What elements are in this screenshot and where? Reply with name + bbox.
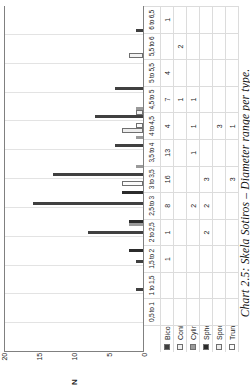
table-cell: 16 [161, 166, 174, 193]
table-column-header: 5 to 5,5 [144, 60, 161, 87]
y-tick-label: 15 [36, 353, 43, 360]
table-cell [200, 60, 213, 87]
table-column-header: 0,5 to 1 [144, 299, 161, 326]
legend-item-spheroid[interactable]: Spheroid [200, 325, 213, 352]
legend-swatch-icon [190, 344, 196, 350]
table-cell [226, 219, 239, 246]
table-row: Conical12 [174, 7, 187, 353]
table-column-header: 5,5 to 6 [144, 33, 161, 60]
figure-page: N 05101520 0,5 to 11 to 1,51,5 to 22 to … [0, 0, 250, 386]
table-cell: 1 [187, 140, 200, 167]
y-axis-title: N [4, 369, 144, 382]
bar-group [5, 63, 143, 92]
table-cell [226, 33, 239, 60]
legend-item-label: Truncated cone [229, 325, 236, 340]
table-cell [213, 33, 226, 60]
bar [136, 29, 143, 32]
legend-item-label: Conical [177, 325, 184, 340]
bar-group-inner [5, 95, 143, 119]
bar [95, 115, 143, 118]
figure-caption: Chart 2.5: Skela Sotiros – Diameter rang… [239, 0, 250, 386]
legend-item-biconical[interactable]: Biconical [161, 325, 174, 352]
legend-swatch-icon [203, 344, 209, 350]
table-cell [174, 246, 187, 273]
table-cell [174, 113, 187, 140]
table-column-header: 4 to 4,5 [144, 113, 161, 140]
bar-group [5, 34, 143, 63]
table-cell: 3 [200, 166, 213, 193]
table-body: Biconical11816134741Conical12Cylindrical… [161, 7, 239, 353]
table-cell [200, 33, 213, 60]
legend-swatch-icon [229, 344, 235, 350]
chart-plot-area: N 05101520 [4, 6, 144, 382]
bar-group-inner [5, 152, 143, 176]
table-cell [161, 272, 174, 299]
table-cell [174, 7, 187, 34]
bar [136, 260, 143, 263]
table-cell [174, 299, 187, 326]
table-cell [187, 60, 200, 87]
table-cell [187, 272, 200, 299]
table-cell [213, 60, 226, 87]
bar-group-inner [5, 66, 143, 90]
bar-group [5, 120, 143, 149]
table-column-header: 2 to 2,5 [144, 219, 161, 246]
table-cell [161, 33, 174, 60]
bar [129, 53, 143, 58]
table-cell [226, 7, 239, 34]
bar [136, 288, 143, 291]
bar-group-inner [5, 325, 143, 349]
table-row: Truncated cone31 [226, 7, 239, 353]
table-cell [187, 166, 200, 193]
table-row: Spool3 [213, 7, 226, 353]
legend-swatch-icon [177, 344, 183, 350]
table-cell [213, 7, 226, 34]
table-cell [226, 246, 239, 273]
table-cell [174, 219, 187, 246]
table-cell [187, 246, 200, 273]
bar-group [5, 6, 143, 34]
table-cell [174, 193, 187, 220]
bar-group-inner [5, 210, 143, 234]
table-cell [213, 219, 226, 246]
table-cell: 1 [174, 86, 187, 113]
bar [136, 165, 143, 168]
bar-groups [5, 6, 143, 351]
bar-group [5, 92, 143, 121]
table-cell [226, 60, 239, 87]
y-axis-ticks: 05101520 [4, 352, 144, 369]
table-cell: 2 [200, 193, 213, 220]
table-header-row: 0,5 to 11 to 1,51,5 to 22 to 2,52,5 to 3… [144, 7, 161, 353]
table-cell: 13 [161, 140, 174, 167]
legend-item-label: Cylindrical [190, 325, 197, 340]
table-cell [187, 299, 200, 326]
legend-item-conical[interactable]: Conical [174, 325, 187, 352]
bar [122, 128, 143, 133]
bar [136, 107, 143, 110]
bar-group [5, 149, 143, 178]
table-column-header: 4,5 to 5 [144, 86, 161, 113]
table-cell: 1 [226, 113, 239, 140]
bar [122, 181, 143, 186]
legend-item-truncated-cone[interactable]: Truncated cone [226, 325, 239, 352]
plot-canvas [4, 6, 144, 352]
table-cell [226, 193, 239, 220]
table-cell: 4 [161, 60, 174, 87]
bar [53, 173, 143, 176]
legend-item-cylindrical[interactable]: Cylindrical [187, 325, 200, 352]
table-cell: 7 [161, 86, 174, 113]
bar-group-inner [5, 267, 143, 291]
bar [136, 123, 143, 128]
table-column-header: 3,5 to 4 [144, 140, 161, 167]
legend-item-spool[interactable]: Spool [213, 325, 226, 352]
table-cell: 1 [187, 86, 200, 113]
bar-group [5, 178, 143, 207]
bar [136, 110, 143, 115]
table-cell: 2 [187, 193, 200, 220]
table-column-header: 2,5 to 3 [144, 193, 161, 220]
bar [136, 136, 143, 139]
y-tick-label: 5 [106, 353, 113, 357]
table-corner-cell [144, 325, 161, 352]
legend-swatch-icon [216, 344, 222, 350]
table-cell [200, 140, 213, 167]
